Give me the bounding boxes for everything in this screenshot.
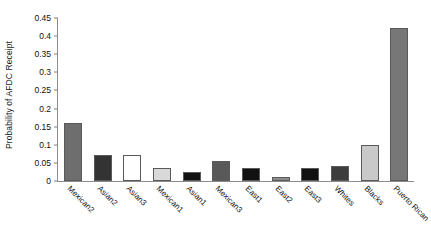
bar[interactable] — [153, 168, 171, 181]
y-axis-tick-label: 0 — [46, 176, 51, 186]
bar-slot — [355, 18, 385, 181]
bar-slot — [117, 18, 147, 181]
bar-slot — [147, 18, 177, 181]
x-axis-tick-label: East2 — [273, 184, 294, 205]
bar[interactable] — [390, 28, 408, 181]
x-axis-tick-label: Whites — [333, 184, 357, 208]
bar[interactable] — [183, 172, 201, 181]
bar[interactable] — [212, 161, 230, 181]
y-axis-tick-label: 0.2 — [39, 104, 51, 114]
x-axis-labels: Mexican2Asian2Asian3Mexican1Asian1Mexica… — [58, 182, 414, 244]
bar-slot — [325, 18, 355, 181]
bar[interactable] — [361, 145, 379, 181]
x-axis-label-slot: East3 — [295, 182, 325, 244]
x-axis-label-slot: East1 — [236, 182, 266, 244]
bar-slot — [206, 18, 236, 181]
bar[interactable] — [64, 123, 82, 181]
bar-slot — [295, 18, 325, 181]
x-axis-label-slot: Mexican3 — [206, 182, 236, 244]
y-axis-tick-label: 0.05 — [34, 158, 51, 168]
x-axis-tick-label: Asian1 — [184, 184, 208, 208]
y-axis-tick-label: 0.25 — [34, 85, 51, 95]
y-axis-tick-label: 0.3 — [39, 67, 51, 77]
x-axis-label-slot: Blacks — [355, 182, 385, 244]
y-axis-tick-label: 0.4 — [39, 31, 51, 41]
y-axis-tick-label: 0.35 — [34, 49, 51, 59]
y-axis: 00.050.10.150.20.250.30.350.40.45 — [20, 18, 58, 181]
plot-area — [58, 18, 414, 181]
bar-slot — [266, 18, 296, 181]
bar[interactable] — [94, 155, 112, 181]
x-axis-label-slot: Asian2 — [88, 182, 118, 244]
y-axis-tick-label: 0.45 — [34, 13, 51, 23]
bar-slot — [88, 18, 118, 181]
x-axis-tick-label: East1 — [243, 184, 264, 205]
x-axis-label-slot: Puerto Rican — [384, 182, 414, 244]
x-axis-label-slot: Mexican1 — [147, 182, 177, 244]
x-axis-tick-label: Blacks — [362, 184, 385, 207]
y-axis-tick-label: 0.1 — [39, 140, 51, 150]
bar-slot — [384, 18, 414, 181]
x-axis-tick-label: Asian3 — [125, 184, 149, 208]
x-axis-tick-label: Puerto Rican — [392, 184, 431, 223]
x-axis-tick-label: East3 — [303, 184, 324, 205]
x-axis-label-slot: Asian1 — [177, 182, 207, 244]
y-axis-title: Probability of AFDC Receipt — [0, 0, 18, 190]
x-axis-label-slot: Mexican2 — [58, 182, 88, 244]
bar[interactable] — [331, 166, 349, 181]
y-axis-tick-label: 0.15 — [34, 122, 51, 132]
bar-slot — [58, 18, 88, 181]
x-axis-label-slot: Asian3 — [117, 182, 147, 244]
x-axis-label-slot: Whites — [325, 182, 355, 244]
bar[interactable] — [242, 168, 260, 181]
y-axis-title-text: Probability of AFDC Receipt — [4, 41, 14, 149]
bar-slot — [177, 18, 207, 181]
x-axis-label-slot: East2 — [266, 182, 296, 244]
x-axis-tick-label: Asian2 — [95, 184, 119, 208]
bar[interactable] — [123, 155, 141, 181]
bar[interactable] — [301, 168, 319, 181]
bar-slot — [236, 18, 266, 181]
bar[interactable] — [272, 177, 290, 181]
